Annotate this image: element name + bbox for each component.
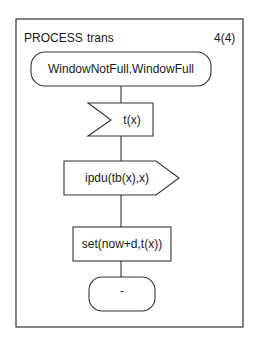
input-signal-shape[interactable] xyxy=(88,103,153,136)
process-keyword: PROCESS xyxy=(24,32,83,44)
task-label: set(now+d,t(x)) xyxy=(82,238,162,250)
output-signal-label: ipdu(tb(x),x) xyxy=(85,172,149,184)
next-state-label: - xyxy=(120,285,124,297)
page-number: 4(4) xyxy=(214,32,235,44)
process-name: trans xyxy=(87,32,114,44)
input-signal-label: t(x) xyxy=(123,114,140,126)
start-state-label: WindowNotFull,WindowFull xyxy=(48,63,194,75)
